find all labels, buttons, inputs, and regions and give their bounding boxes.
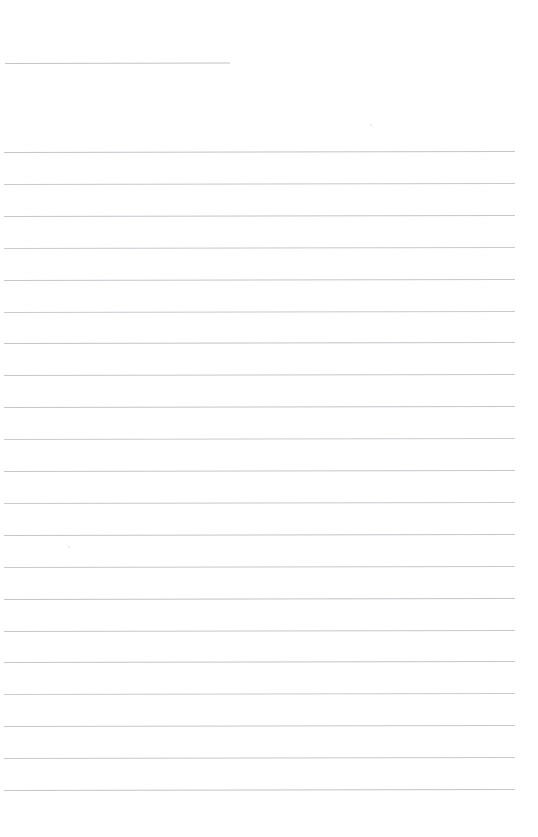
ruled-line: [4, 725, 515, 727]
ruled-line: [4, 470, 515, 472]
ruled-line: [4, 438, 515, 440]
ruled-line: [4, 789, 515, 791]
lined-page: [0, 0, 538, 837]
ruled-line: [4, 311, 515, 313]
ruled-line: [4, 566, 515, 568]
ruled-line: [4, 661, 515, 663]
title-blank-rule: [5, 63, 230, 64]
ruled-line: [4, 406, 515, 408]
ruled-line: [4, 374, 515, 376]
ruled-line: [4, 534, 515, 536]
ruled-line: [4, 630, 515, 632]
ruled-line: [4, 247, 515, 249]
scan-speck: [68, 546, 70, 548]
ruled-line: [4, 598, 515, 600]
scan-speck: [370, 124, 372, 126]
ruled-line: [4, 757, 515, 759]
ruled-line: [4, 183, 515, 185]
ruled-line: [4, 342, 515, 344]
ruled-line: [4, 693, 515, 695]
ruled-line: [4, 151, 515, 153]
ruled-line: [4, 279, 515, 281]
ruled-line: [4, 502, 515, 504]
ruled-line: [4, 215, 515, 217]
